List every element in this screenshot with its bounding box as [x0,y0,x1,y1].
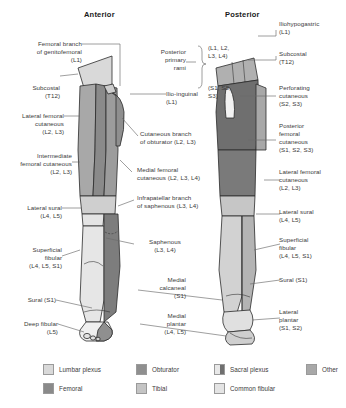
legend: Lumbar plexusObturatorSacral plexusOther… [43,360,305,398]
legend-swatch [214,364,225,375]
legend-swatch [43,364,54,375]
label-rami-lower-roots: (S1, S2, S3) [208,84,242,100]
legend-label: Other [322,366,338,373]
label-posterior-lateral-femoral-cutaneous: Lateral femoral cutaneous (L2, L3) [279,168,343,192]
legend-label: Tibial [152,385,167,392]
legend-label: Lumbar plexus [59,366,101,373]
label-intermediate-femoral-cutaneous: Intermediate femoral cutaneous (L2, L3) [2,152,72,176]
label-posterior-superficial-fibular: Superficial fibular (L4, L5, S1) [279,236,341,260]
label-lateral-plantar: Lateral plantar (S1, S2) [279,308,335,332]
legend-item: Lumbar plexus [43,364,136,375]
label-medial-plantar: Medial plantar (L4, L5) [132,312,186,336]
label-iliohypogastric: Iliohypogastric (L1) [279,20,345,36]
legend-item: Other [306,364,346,375]
nerve-distribution-diagram: Anterior Posterior .ol { stroke:#2b2b2b;… [0,0,346,408]
legend-swatch [136,383,147,394]
legend-item: Sacral plexus [214,364,306,375]
label-posterior-sural: Sural (S1) [279,276,337,284]
label-deep-fibular: Deep fibular (L5) [4,320,58,336]
label-rami-upper-roots: (L1, L2, L3, L4) [208,44,248,60]
label-medial-calcaneal: Medial calcaneal (S1) [132,276,186,300]
label-perforating-cutaneous: Perforating cutaneous (S2, S3) [279,84,341,108]
legend-swatch [214,383,225,394]
label-anterior-superficial-fibular: Superficial fibular (L4, L5, S1) [6,246,62,270]
legend-item: Obturator [136,364,214,375]
legend-swatch [136,364,147,375]
label-posterior-femoral-cutaneous: Posterior femoral cutaneous (S1, S2, S3) [279,122,341,154]
label-posterior-primary-rami: Posterior primary rami [142,48,186,72]
legend-label: Obturator [152,366,179,373]
label-anterior-sural: Sural (S1) [8,296,56,304]
label-posterior-subcostal: Subcostal (T12) [279,50,341,66]
label-cutaneous-branch-obturator: Cutaneous branch of obturator (L2, L3) [140,130,224,146]
posterior-limb [216,58,266,345]
anterior-limb [78,56,124,341]
label-posterior-lateral-sural: Lateral sural (L4, L5) [279,208,341,224]
legend-label: Common fibular [230,385,275,392]
label-femoral-branch-genitofemoral: Femoral branch of genitofemoral (L1) [8,40,82,64]
legend-swatch [43,383,54,394]
label-anterior-lateral-sural: Lateral sural (L4, L5) [8,204,62,220]
label-medial-femoral-cutaneous: Medial femoral cutaneous (L2, L3, L4) [137,166,223,182]
label-saphenous: Saphenous (L3, L4) [134,238,196,254]
label-anterior-lateral-femoral-cutaneous: Lateral femoral cutaneous (L2, L3) [6,112,64,136]
legend-label: Sacral plexus [230,366,268,373]
legend-label: Femoral [59,385,82,392]
label-infrapatellar-branch-saphenous: Infrapatellar branch of saphenous (L3, L… [137,194,223,210]
legend-item: Tibial [136,383,214,394]
legend-item: Common fibular [214,383,306,394]
label-anterior-subcostal: Subcostal (T12) [8,84,60,100]
legend-item: Femoral [43,383,136,394]
legend-swatch [306,364,317,375]
